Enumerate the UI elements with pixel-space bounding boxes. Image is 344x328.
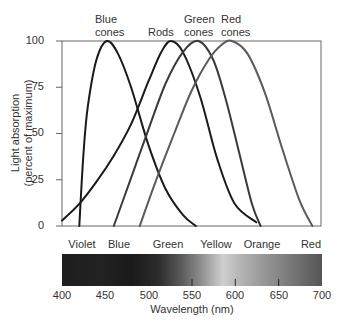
plot-frame [62, 41, 321, 226]
curve-blue-cones [79, 41, 196, 226]
curve-green-cones [114, 41, 261, 226]
absorption-curves [62, 41, 312, 226]
curve-rods [62, 41, 256, 222]
absorption-chart [0, 0, 344, 328]
curve-red-cones [140, 41, 313, 226]
y-axis-ticks [56, 41, 62, 226]
spectrum-ticks [105, 279, 278, 286]
